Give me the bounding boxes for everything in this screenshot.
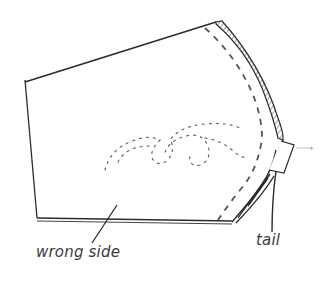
svg-text:+: + — [309, 144, 314, 151]
tail-leader-line — [272, 171, 276, 232]
tail-label: tail — [256, 231, 280, 249]
wrong-side-label: wrong side — [36, 243, 120, 261]
